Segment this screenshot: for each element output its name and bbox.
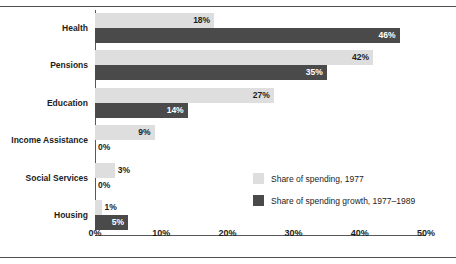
x-axis-tick-label: 20% <box>197 228 257 238</box>
bar[interactable] <box>95 88 274 103</box>
bar-row: 35% <box>95 65 327 80</box>
category-label: Income Assistance <box>0 135 88 145</box>
x-axis-tick-label: 30% <box>264 228 324 238</box>
bar-row: 3% <box>95 163 115 178</box>
plot-area: Health18%46%Pensions42%35%Education27%14… <box>0 10 456 225</box>
bar-value-label: 27% <box>253 88 270 103</box>
bar-row: 9% <box>95 125 155 140</box>
category-label: Health <box>0 23 88 33</box>
bar-group: Income Assistance9%0% <box>0 124 456 157</box>
top-divider-rule <box>0 6 456 7</box>
x-axis-tick-label: 40% <box>330 228 390 238</box>
bar-group: Health18%46% <box>0 12 456 45</box>
x-axis-tick-label: 10% <box>131 228 191 238</box>
category-label: Pensions <box>0 60 88 70</box>
x-axis-tick-label: 50% <box>396 228 456 238</box>
bar-chart: Health18%46%Pensions42%35%Education27%14… <box>0 0 456 264</box>
bar-value-label: 35% <box>306 65 323 80</box>
category-label: Housing <box>0 210 88 220</box>
bar[interactable] <box>95 163 115 178</box>
bar[interactable] <box>95 28 400 43</box>
bar-row: 46% <box>95 28 400 43</box>
legend-swatch-icon <box>253 195 264 206</box>
x-axis-tick-labels: 0%10%20%30%40%50% <box>0 228 456 244</box>
bar-value-label: 9% <box>138 125 150 140</box>
bar-group: Social Services3%0% <box>0 162 456 195</box>
bar[interactable] <box>95 200 102 215</box>
bar-row: 42% <box>95 50 373 65</box>
bottom-divider-rule <box>0 257 456 258</box>
bar-row: 14% <box>95 103 188 118</box>
bar-group: Education27%14% <box>0 87 456 120</box>
bar-row: 0% <box>95 140 96 155</box>
bar-value-label: 0% <box>98 140 110 155</box>
bar-row: 27% <box>95 88 274 103</box>
bar-row: 18% <box>95 13 214 28</box>
bar-value-label: 46% <box>379 28 396 43</box>
bar-value-label: 1% <box>105 200 117 215</box>
legend-label: Share of spending growth, 1977–1989 <box>271 194 415 208</box>
bar-row: 0% <box>95 178 96 193</box>
bar-value-label: 18% <box>193 13 210 28</box>
bar-value-label: 3% <box>118 163 130 178</box>
x-axis-tick-label: 0% <box>65 228 125 238</box>
category-label: Social Services <box>0 173 88 183</box>
bar[interactable] <box>95 65 327 80</box>
bar-row: 1% <box>95 200 102 215</box>
bar[interactable] <box>95 50 373 65</box>
bar-group: Pensions42%35% <box>0 49 456 82</box>
bar-value-label: 14% <box>167 103 184 118</box>
category-label: Education <box>0 98 88 108</box>
bar-value-label: 42% <box>352 50 369 65</box>
bar-value-label: 0% <box>98 178 110 193</box>
legend-swatch-icon <box>253 173 264 184</box>
legend-label: Share of spending, 1977 <box>271 172 364 186</box>
